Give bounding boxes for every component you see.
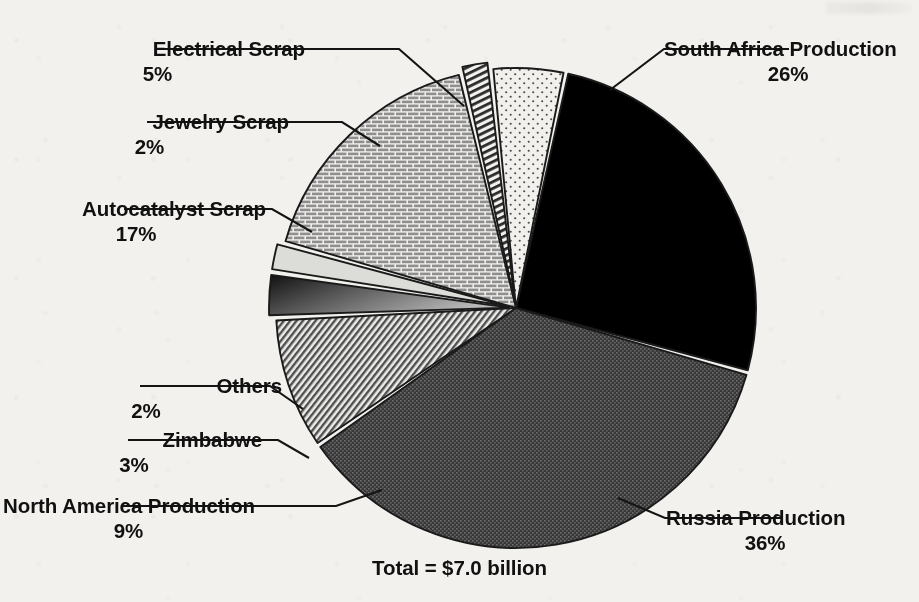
- slice-label-zimbabwe: Zimbabwe 3%: [6, 427, 262, 477]
- slice-label-electrical-scrap-text: Electrical Scrap: [153, 37, 305, 60]
- pie-slice-group: [269, 63, 756, 548]
- slice-label-jewelry-scrap: Jewelry Scrap 2%: [10, 109, 289, 159]
- chart-total-caption: Total = $7.0 billion: [0, 556, 919, 580]
- slice-label-electrical-scrap: Electrical Scrap 5%: [10, 36, 305, 86]
- slice-label-autocatalyst-scrap: Autocatalyst Scrap 17%: [6, 196, 266, 246]
- slice-label-south-africa-production-text: South Africa Production: [664, 37, 897, 60]
- slice-label-north-america-production-percent: 9%: [2, 518, 255, 543]
- slice-label-others-text: Others: [217, 374, 282, 397]
- slice-label-zimbabwe-text: Zimbabwe: [163, 428, 262, 451]
- slice-label-jewelry-scrap-text: Jewelry Scrap: [152, 110, 289, 133]
- slice-label-north-america-production-text: North America Production: [3, 494, 255, 517]
- slice-label-electrical-scrap-percent: 5%: [10, 61, 305, 86]
- slice-label-south-africa-production: South Africa Production 26%: [664, 36, 912, 86]
- slice-label-autocatalyst-scrap-text: Autocatalyst Scrap: [82, 197, 266, 220]
- slice-label-russia-production-text: Russia Production: [666, 506, 845, 529]
- pie-chart-figure: Electrical Scrap 5% Jewelry Scrap 2% Aut…: [0, 0, 919, 602]
- slice-label-others-percent: 2%: [10, 398, 282, 423]
- slice-label-jewelry-scrap-percent: 2%: [10, 134, 289, 159]
- slice-label-north-america-production: North America Production 9%: [2, 493, 255, 543]
- slice-label-russia-production: Russia Production 36%: [666, 505, 864, 555]
- slice-label-russia-production-percent: 36%: [666, 530, 864, 555]
- slice-label-autocatalyst-scrap-percent: 17%: [6, 221, 266, 246]
- slice-label-south-africa-production-percent: 26%: [664, 61, 912, 86]
- slice-label-zimbabwe-percent: 3%: [6, 452, 262, 477]
- slice-label-others: Others 2%: [10, 373, 282, 423]
